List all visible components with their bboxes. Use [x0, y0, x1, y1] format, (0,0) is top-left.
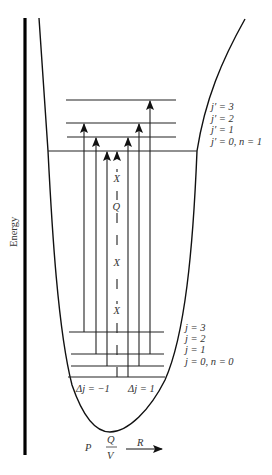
branch-p-label: P	[84, 442, 92, 453]
energy-axis-label: Energy	[8, 216, 19, 247]
marker-x-1: X	[113, 173, 121, 184]
label-j-1: j = 1	[183, 344, 206, 355]
label-j-prime-2: j′ = 2	[209, 113, 235, 124]
label-j-2: j = 2	[183, 333, 206, 344]
branch-v-label: V	[107, 450, 115, 461]
upper-level-labels: j′ = 3 j′ = 2 j′ = 1 j′ = 0, n = 1	[209, 101, 262, 147]
marker-q: Q	[113, 201, 121, 212]
delta-j-plus-label: Δj = 1	[127, 383, 155, 394]
branch-q-label: Q	[107, 434, 115, 445]
lower-level-labels: j = 3 j = 2 j = 1 j = 0, n = 0	[183, 322, 234, 367]
label-j-prime-1: j′ = 1	[209, 124, 234, 135]
potential-well-curve	[39, 18, 245, 432]
transition-arrows	[84, 101, 150, 377]
label-j-prime-0: j′ = 0, n = 1	[209, 136, 262, 147]
label-j-3: j = 3	[183, 322, 206, 333]
upper-levels	[48, 100, 197, 151]
energy-level-diagram: Energy X Q X X j′ = 3 j′ = 2 j′ = 1 j′ =	[0, 0, 272, 475]
label-j-0: j = 0, n = 0	[183, 356, 234, 367]
marker-x-3: X	[113, 305, 121, 316]
label-j-prime-3: j′ = 3	[209, 101, 234, 112]
delta-j-minus-label: Δj = −1	[75, 383, 110, 394]
branch-r-label: R	[136, 437, 144, 448]
marker-x-2: X	[113, 257, 121, 268]
